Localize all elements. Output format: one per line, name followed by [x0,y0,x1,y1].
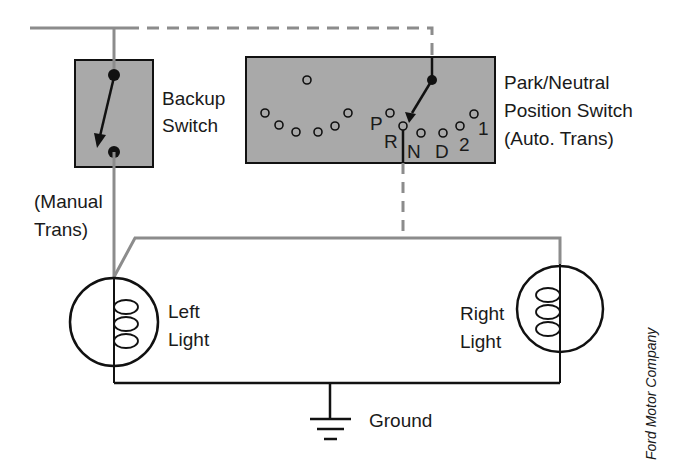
backup-switch-label-2: Switch [162,115,218,136]
left-light-label-2: Light [168,329,210,350]
park-neutral-label-1: Park/Neutral [504,72,610,93]
park-neutral-switch-box [246,57,495,163]
credit-text: Ford Motor Company [643,327,659,460]
park-neutral-label-2: Position Switch [504,100,633,121]
position-p: P [370,113,383,134]
park-neutral-switch: P R N D 2 1 [246,57,495,163]
right-light-label-2: Light [460,331,502,352]
position-n: N [407,141,421,162]
backup-switch-label-1: Backup [162,88,225,109]
right-light-label-1: Right [460,303,505,324]
backup-switch [75,28,153,167]
feed-wire-dashed [127,28,432,58]
light-feed-bus [114,238,560,277]
ground-label: Ground [369,410,432,431]
position-2: 2 [459,134,470,155]
position-r: R [384,131,398,152]
right-filament-icon [536,288,560,336]
manual-trans-note-2: Trans) [34,219,88,240]
backup-light-wiring-diagram: Backup Switch (Manual Trans) P R [0,0,675,469]
left-light-label-1: Left [168,301,200,322]
right-light [517,264,603,383]
ground-symbol-icon [310,383,351,439]
manual-trans-note-1: (Manual [34,191,103,212]
park-neutral-label-3: (Auto. Trans) [504,128,614,149]
position-1: 1 [478,118,489,139]
position-d: D [435,141,449,162]
left-light [70,277,158,383]
left-filament-icon [114,300,138,348]
